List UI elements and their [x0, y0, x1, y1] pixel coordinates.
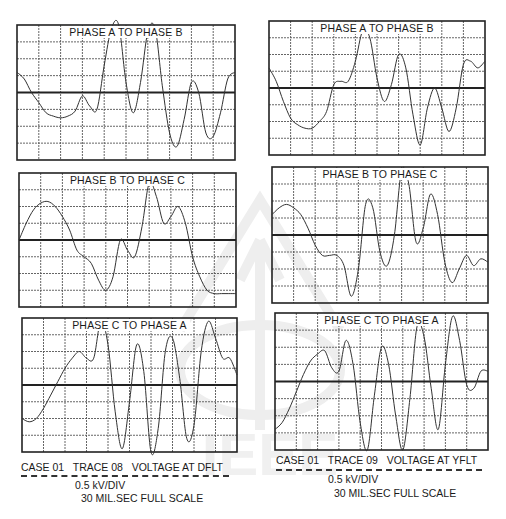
scope-panel-trace09-bc: PHASE B TO PHASE C	[272, 167, 488, 303]
oscillogram-plot	[17, 25, 235, 160]
scope-panel-trace08-bc: PHASE B TO PHASE C	[19, 173, 236, 307]
panel-title-text: PHASE B TO PHASE C	[319, 168, 440, 180]
oscillogram-plot	[269, 21, 485, 155]
caption-trace08: CASE 01 TRACE 08 VOLTAGE AT DFLT	[21, 461, 223, 473]
panel-title: PHASE C TO PHASE A	[275, 314, 488, 326]
panel-title: PHASE B TO PHASE C	[19, 174, 236, 186]
caption-divider-left	[21, 475, 229, 477]
panel-title: PHASE A TO PHASE B	[269, 22, 485, 34]
scale-vertical-left: 0.5 kV/DIV	[75, 479, 125, 491]
panel-title-text: PHASE B TO PHASE C	[67, 174, 188, 186]
scope-panel-trace09-ab: PHASE A TO PHASE B	[269, 21, 485, 155]
scope-panel-trace08-ab: PHASE A TO PHASE B	[17, 25, 235, 160]
panel-title: PHASE C TO PHASE A	[22, 319, 237, 331]
scale-vertical-right: 0.5 kV/DIV	[328, 473, 378, 485]
scope-panel-trace08-ca: PHASE C TO PHASE A	[22, 318, 237, 452]
oscillogram-plot	[22, 318, 237, 452]
panel-title-text: PHASE C TO PHASE A	[321, 314, 442, 326]
scope-panel-trace09-ca: PHASE C TO PHASE A	[275, 313, 488, 450]
oscillogram-plot	[272, 167, 488, 303]
caption-divider-right	[276, 469, 482, 471]
panel-title-text: PHASE A TO PHASE B	[317, 22, 437, 34]
panel-title: PHASE A TO PHASE B	[17, 26, 235, 38]
panel-title-text: PHASE A TO PHASE B	[66, 26, 186, 38]
oscillogram-plot	[275, 313, 488, 450]
panel-title-text: PHASE C TO PHASE A	[69, 319, 190, 331]
caption-trace09: CASE 01 TRACE 09 VOLTAGE AT YFLT	[276, 454, 477, 466]
scale-horizontal-right: 30 MIL.SEC FULL SCALE	[334, 487, 456, 499]
scale-horizontal-left: 30 MIL.SEC FULL SCALE	[81, 492, 203, 504]
oscillogram-plot	[19, 173, 236, 307]
panel-title: PHASE B TO PHASE C	[272, 168, 488, 180]
